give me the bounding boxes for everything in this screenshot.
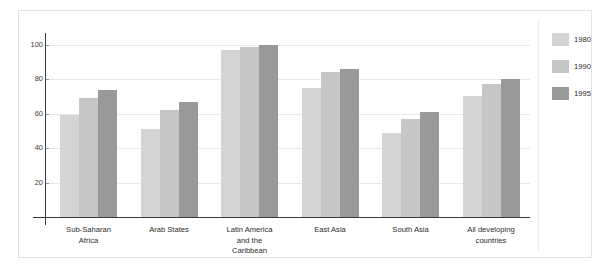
- bars-layer: [46, 31, 530, 217]
- bar-group: [382, 31, 439, 217]
- y-tick-label-text: 40: [21, 144, 43, 152]
- bar[interactable]: [302, 88, 321, 217]
- bar[interactable]: [340, 69, 359, 217]
- x-axis-category-label: All developingcountries: [443, 225, 539, 246]
- bar[interactable]: [401, 119, 420, 217]
- category-label-line: All developing: [443, 225, 539, 236]
- y-tick-label-text: 100: [21, 41, 43, 49]
- bar[interactable]: [321, 72, 340, 217]
- bar-group: [302, 31, 359, 217]
- bar[interactable]: [221, 50, 240, 217]
- bar-group: [221, 31, 278, 217]
- bar[interactable]: [179, 102, 198, 217]
- bar[interactable]: [482, 84, 501, 217]
- bar[interactable]: [463, 96, 482, 217]
- bar[interactable]: [160, 110, 179, 217]
- y-tick-label-40: 40: [19, 144, 43, 152]
- bar[interactable]: [79, 98, 98, 217]
- legend-item[interactable]: 1990: [552, 60, 592, 74]
- legend-item[interactable]: 1980: [552, 33, 592, 47]
- legend-label: 1995: [574, 89, 591, 98]
- category-label-line: Caribbean: [202, 246, 298, 257]
- y-tick-label-text: 20: [21, 179, 43, 187]
- y-tick-label-100: 100: [19, 41, 43, 49]
- y-tick-label-text: 60: [21, 110, 43, 118]
- legend-divider: [538, 19, 539, 251]
- category-label-line: Africa: [41, 236, 137, 247]
- legend-swatch: [552, 60, 569, 73]
- chart-legend: 198019901995: [552, 33, 592, 114]
- bar[interactable]: [240, 47, 259, 218]
- category-label-line: and the: [202, 236, 298, 247]
- bar-group: [463, 31, 520, 217]
- bar[interactable]: [60, 115, 79, 217]
- plot-area: 20406080100 Sub-SaharanAfricaArab States…: [19, 11, 593, 259]
- legend-label: 1990: [574, 62, 591, 71]
- bar[interactable]: [98, 90, 117, 217]
- bar-group: [141, 31, 198, 217]
- y-tick-label-text: 80: [21, 75, 43, 83]
- legend-label: 1980: [574, 35, 591, 44]
- y-tick-label-60: 60: [19, 110, 43, 118]
- chart-card: 20406080100 Sub-SaharanAfricaArab States…: [18, 10, 592, 258]
- legend-swatch: [552, 33, 569, 46]
- y-tick-label-20: 20: [19, 179, 43, 187]
- category-label-line: countries: [443, 236, 539, 247]
- bar[interactable]: [259, 45, 278, 217]
- legend-item[interactable]: 1995: [552, 87, 592, 101]
- bar[interactable]: [420, 112, 439, 217]
- bar-group: [60, 31, 117, 217]
- bar[interactable]: [382, 133, 401, 217]
- bar[interactable]: [141, 129, 160, 217]
- bar[interactable]: [501, 79, 520, 217]
- legend-swatch: [552, 87, 569, 100]
- y-tick-label-80: 80: [19, 75, 43, 83]
- x-axis-line: [33, 217, 530, 218]
